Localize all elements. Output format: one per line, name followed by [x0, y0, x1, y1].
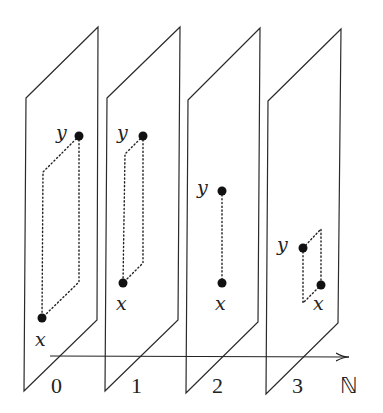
label-x-1: x: [116, 292, 127, 314]
label-y-2: y: [196, 176, 208, 198]
plane-3: y x: [266, 29, 341, 394]
point-y-1: [139, 132, 148, 141]
index-label-3: 3: [292, 373, 303, 398]
point-y-3: [299, 244, 308, 253]
point-y-0: [75, 132, 84, 141]
plane-0: y x: [24, 27, 98, 391]
index-label-0: 0: [51, 373, 62, 398]
label-y-1: y: [116, 121, 128, 143]
label-x-0: x: [35, 328, 46, 350]
label-y-3: y: [276, 233, 288, 255]
point-x-3: [317, 281, 326, 290]
point-x-2: [218, 279, 227, 288]
label-x-2: x: [215, 292, 226, 314]
point-x-1: [119, 279, 128, 288]
planes-diagram: y x y x y x y x 0 1 2 3 ℕ: [0, 0, 383, 413]
point-y-2: [218, 187, 227, 196]
label-y-0: y: [55, 121, 67, 143]
index-label-1: 1: [131, 373, 142, 398]
plane-1: y x: [105, 27, 180, 391]
index-label-2: 2: [212, 373, 223, 398]
label-x-3: x: [313, 292, 324, 314]
point-x-0: [38, 314, 47, 323]
plane-2: y x: [186, 28, 260, 393]
axis-label-naturals: ℕ: [340, 373, 358, 398]
